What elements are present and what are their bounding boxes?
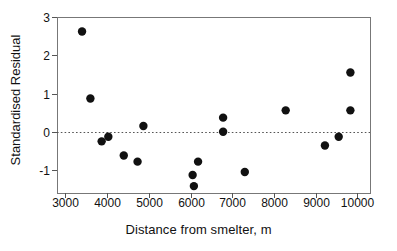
x-tick-label: 8000 xyxy=(261,196,288,210)
data-point xyxy=(335,133,343,141)
data-point xyxy=(241,168,249,176)
y-tick-label: 1 xyxy=(28,88,50,102)
plot-canvas xyxy=(0,0,397,251)
plot-frame xyxy=(58,18,371,194)
data-point xyxy=(104,133,112,141)
y-tick-label: -1 xyxy=(28,164,50,178)
data-point xyxy=(346,68,354,76)
scatter-plot-figure: Standardised Residual 300040005000600070… xyxy=(0,0,397,251)
data-point xyxy=(139,122,147,130)
x-tick-label: 10000 xyxy=(341,196,374,210)
y-tick-label: 3 xyxy=(28,11,50,25)
data-point xyxy=(86,94,94,102)
data-point xyxy=(133,157,141,165)
y-tick-label: 0 xyxy=(28,126,50,140)
x-axis-label: Distance from smelter, m xyxy=(0,222,397,237)
data-point xyxy=(219,113,227,121)
data-point xyxy=(120,151,128,159)
x-tick-label: 9000 xyxy=(303,196,330,210)
y-tick-label: 2 xyxy=(28,49,50,63)
x-tick-label: 6000 xyxy=(178,196,205,210)
data-point xyxy=(282,106,290,114)
data-point-group xyxy=(78,27,355,190)
data-point xyxy=(346,106,354,114)
data-point xyxy=(219,128,227,136)
x-tick-label: 7000 xyxy=(219,196,246,210)
data-point xyxy=(321,141,329,149)
data-point xyxy=(188,171,196,179)
data-point xyxy=(190,182,198,190)
data-point xyxy=(78,27,86,35)
data-point xyxy=(194,157,202,165)
x-tick-label: 3000 xyxy=(52,196,79,210)
x-tick-label: 4000 xyxy=(94,196,121,210)
x-tick-label: 5000 xyxy=(136,196,163,210)
